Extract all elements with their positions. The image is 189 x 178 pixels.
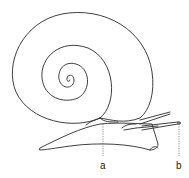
tentacle-tip [178,122,180,124]
snail-diagram [0,0,189,178]
shell-spiral [42,45,112,118]
body-fold [122,124,136,128]
snail-foot [40,123,158,150]
label-b: b [176,161,182,171]
label-a: a [100,161,106,171]
lower-tentacle [142,122,178,130]
